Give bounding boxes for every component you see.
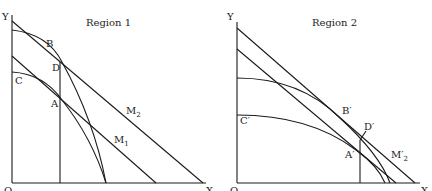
panel-region-2: Y O X Region 2 B′ D′ C′ A′ M′2: [226, 11, 429, 191]
line-m2-prime-label: M′2: [391, 149, 408, 163]
diagram-canvas: Y O X Region 1 B D C A M2 M1 Y O X Regio…: [0, 0, 432, 191]
point-b-label: B: [46, 38, 53, 49]
point-a-prime-label: A′: [344, 149, 355, 160]
point-c-prime-label: C′: [240, 115, 251, 126]
origin-label: O: [230, 185, 238, 191]
panel-title: Region 1: [86, 17, 131, 28]
origin-label: O: [4, 185, 12, 191]
panel-region-1: Y O X Region 1 B D C A M2 M1: [1, 11, 214, 191]
line-m2-label: M2: [126, 105, 141, 119]
panel-title: Region 2: [312, 17, 357, 28]
budget-line-m1: [12, 56, 156, 183]
y-axis-label: Y: [1, 11, 9, 22]
y-axis-label: Y: [226, 11, 234, 22]
point-c-label: C: [15, 75, 23, 86]
line-m1-label: M1: [114, 134, 129, 148]
point-a-label: A: [50, 98, 59, 109]
lower-production-curve: [237, 115, 385, 183]
point-b-prime-label: B′: [342, 105, 352, 116]
point-d-prime-label: D′: [364, 121, 375, 132]
x-axis-label: X: [206, 185, 214, 191]
x-axis-label: X: [421, 185, 429, 191]
point-d-label: D: [52, 62, 60, 73]
outer-production-curve: [12, 30, 106, 183]
budget-line-m2: [12, 21, 203, 183]
